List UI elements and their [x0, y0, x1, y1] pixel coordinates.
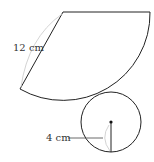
- radius-label: 4 cm: [46, 132, 71, 143]
- base-circle: 4 cm: [46, 92, 141, 152]
- center-dot: [109, 120, 112, 123]
- slant-height-label: 12 cm: [13, 42, 45, 53]
- radius-measure-arc: [105, 125, 110, 151]
- sector: 12 cm: [13, 12, 150, 100]
- sector-outline: [20, 12, 150, 100]
- cone-net-diagram: 12 cm 4 cm: [0, 0, 154, 162]
